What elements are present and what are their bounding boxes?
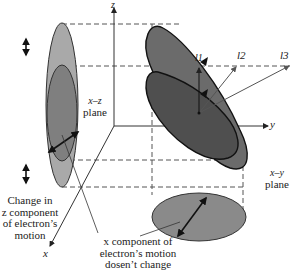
z-change-line4: motion <box>0 230 60 242</box>
l1-label: l1 <box>195 53 203 64</box>
l2-label: l2 <box>237 50 246 62</box>
l3-label: l3 <box>280 50 289 62</box>
leader-line-1 <box>62 135 98 233</box>
xy-plane-label-line1: x–y <box>262 168 291 179</box>
xz-inner-ellipse <box>47 65 77 161</box>
origin-dot <box>198 112 201 115</box>
z-change-line1: Change in <box>0 195 60 207</box>
x-const-annotation: x component of electron’s motion dosen’t… <box>90 236 186 271</box>
x-const-line3: dosen’t change <box>90 259 186 271</box>
y-axis-label: y <box>270 119 275 131</box>
z-change-line3: of electron’s <box>0 218 60 230</box>
z-change-annotation: Change in z component of electron’s moti… <box>0 195 60 241</box>
main-ellipse-group <box>146 26 247 169</box>
xy-plane-label-line2: plane <box>262 179 291 191</box>
xy-plane-label: x–y plane <box>262 168 291 190</box>
xz-plane-label-line1: x–z <box>78 96 112 107</box>
xz-plane-label-line2: plane <box>78 107 112 119</box>
xy-ellipse <box>152 193 246 241</box>
x-const-line1: x component of <box>90 236 186 248</box>
xz-plane-label: x–z plane <box>78 96 112 118</box>
z-axis-label: z <box>111 0 115 11</box>
x-axis-label: x <box>43 248 48 260</box>
